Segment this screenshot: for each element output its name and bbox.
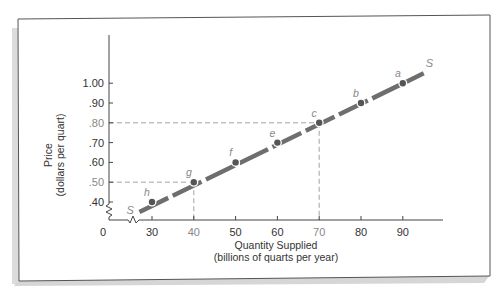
x-tick-label: 30: [146, 226, 158, 238]
data-point-marker: [274, 139, 280, 145]
y-axis-title: Price: [42, 143, 54, 167]
y-tick-label: .90: [89, 97, 104, 109]
point-label: b: [353, 87, 359, 99]
data-point-marker: [149, 199, 155, 205]
data-point-marker: [358, 100, 364, 106]
x-axis-subtitle: (billions of quarts per year): [214, 251, 338, 263]
x-tick-label: 60: [271, 226, 283, 238]
y-tick-label: .70: [89, 137, 104, 149]
supply-curve-chart: 30405060708090 .40.50.60.70.80.901.00 SS…: [0, 0, 501, 298]
curve-label-end: S: [426, 57, 434, 69]
data-point-marker: [400, 80, 406, 86]
x-axis-title: Quantity Supplied: [235, 239, 318, 251]
y-tick-label: 1.00: [83, 77, 104, 89]
point-label: c: [312, 107, 318, 119]
point-label: h: [144, 186, 150, 198]
origin-label: 0: [100, 226, 106, 238]
y-tick-label: .40: [89, 196, 104, 208]
point-label: g: [186, 166, 192, 178]
point-label: a: [395, 67, 401, 79]
x-tick-label: 40: [188, 226, 200, 238]
point-label: e: [269, 127, 275, 139]
x-tick-label: 80: [355, 226, 367, 238]
x-tick-label: 90: [397, 226, 409, 238]
data-point-marker: [232, 159, 238, 165]
y-tick-label: .80: [89, 117, 104, 129]
curve-label-start: S: [126, 204, 134, 216]
y-axis-subtitle: (dollars per quart): [54, 114, 66, 197]
data-point-marker: [191, 179, 197, 185]
y-tick-label: .60: [89, 156, 104, 168]
y-tick-label: .50: [89, 176, 104, 188]
data-point-marker: [316, 120, 322, 126]
x-tick-label: 70: [313, 226, 325, 238]
x-tick-label: 50: [229, 226, 241, 238]
